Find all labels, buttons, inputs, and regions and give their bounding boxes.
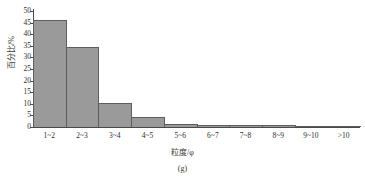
bar xyxy=(229,125,263,127)
bar xyxy=(295,126,329,127)
y-tick-mark xyxy=(30,69,33,70)
bar xyxy=(327,126,361,127)
y-tick-label: 35 xyxy=(13,42,31,50)
x-tick-label: 4~5 xyxy=(131,131,164,140)
y-tick-label: 15 xyxy=(13,88,31,96)
x-tick-label: 7~8 xyxy=(229,131,262,140)
bar xyxy=(197,125,231,127)
x-tick-label: 3~4 xyxy=(98,131,131,140)
y-tick-mark xyxy=(30,81,33,82)
y-tick-mark xyxy=(30,127,33,128)
bar xyxy=(164,124,198,127)
y-axis-tick-labels: 05101520253035404550 xyxy=(13,6,31,132)
x-axis-tick-labels: 1~22~33~44~55~66~77~88~99~10>10 xyxy=(33,131,360,140)
y-tick-label: 30 xyxy=(13,53,31,61)
x-tick-label: 2~3 xyxy=(66,131,99,140)
y-tick-label: 0 xyxy=(13,123,31,131)
y-tick-label: 45 xyxy=(13,19,31,27)
y-tick-mark xyxy=(30,11,33,12)
y-tick-label: 10 xyxy=(13,100,31,108)
x-tick-label: 6~7 xyxy=(197,131,230,140)
y-tick-label: 50 xyxy=(13,7,31,15)
y-tick-mark xyxy=(30,23,33,24)
y-tick-mark xyxy=(30,46,33,47)
x-tick-label: 1~2 xyxy=(33,131,66,140)
y-tick-mark xyxy=(30,115,33,116)
bar-series xyxy=(33,11,360,127)
bar xyxy=(33,20,67,127)
bar xyxy=(262,125,296,127)
y-tick-label: 5 xyxy=(13,111,31,119)
x-tick-label: 9~10 xyxy=(295,131,328,140)
x-tick-label: 5~6 xyxy=(164,131,197,140)
bar xyxy=(131,117,165,127)
y-tick-mark xyxy=(30,34,33,35)
x-tick-label: 8~9 xyxy=(262,131,295,140)
y-tick-mark xyxy=(30,104,33,105)
bar xyxy=(98,103,132,127)
x-axis-title: 粒度/φ xyxy=(0,146,365,157)
figure-histogram-grain-size: 百分比/% 05101520253035404550 1~22~33~44~55… xyxy=(0,0,365,182)
plot-area xyxy=(33,11,360,128)
y-tick-label: 25 xyxy=(13,65,31,73)
y-tick-label: 40 xyxy=(13,30,31,38)
y-tick-label: 20 xyxy=(13,77,31,85)
bar xyxy=(66,47,100,127)
x-tick-label: >10 xyxy=(327,131,360,140)
y-tick-mark xyxy=(30,92,33,93)
x-axis-line xyxy=(33,127,360,128)
y-tick-mark xyxy=(30,57,33,58)
figure-caption: (g) xyxy=(0,164,365,173)
